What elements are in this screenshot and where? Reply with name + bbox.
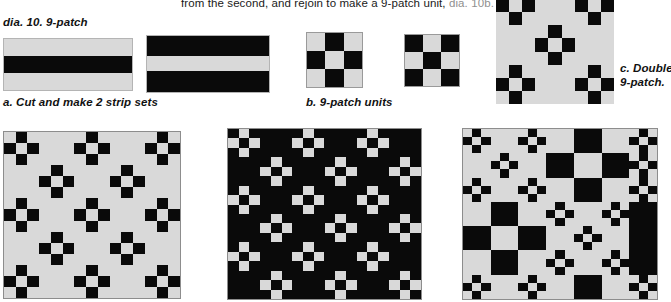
caption-b: b. 9-patch units xyxy=(306,96,393,108)
patch-cell-r2c0 xyxy=(574,242,583,250)
patch-cell-r0c2 xyxy=(410,214,421,223)
patch-cell-r0c0 xyxy=(307,33,325,51)
quilt-plain-r0c5 xyxy=(389,129,421,157)
quilt-plain-r3c2 xyxy=(292,214,324,242)
quilt-unit-r5c5 xyxy=(389,271,421,299)
patch-cell-r1c1 xyxy=(528,186,537,194)
patch-cell-r1c0 xyxy=(145,276,157,287)
patch-cell-r0c0 xyxy=(260,271,271,280)
quilt-plain-r0c3 xyxy=(546,129,574,153)
patch-cell-r0c0 xyxy=(574,226,583,234)
nine-patch-sub xyxy=(325,271,357,299)
strip-set-2 xyxy=(146,35,270,93)
patch-cell-r2c1 xyxy=(367,205,378,214)
patch-cell-r2c1 xyxy=(509,12,522,25)
nine-patch-sub xyxy=(4,132,39,165)
patch-cell-r0c2 xyxy=(346,157,357,166)
patch-cell-r2c2 xyxy=(537,291,546,299)
patch-cell-r0c2 xyxy=(314,242,325,251)
patch-cell-r2c0 xyxy=(307,69,325,87)
patch-cell-r1c1 xyxy=(367,138,378,147)
patch-cell-r0c0 xyxy=(228,242,239,251)
quilt-plain-r0c3 xyxy=(110,132,145,165)
patch-cell-r1c2 xyxy=(168,143,180,154)
patch-cell-r1c1 xyxy=(528,137,537,145)
patch-cell-r1c1 xyxy=(588,0,601,12)
patch-cell-r2c0 xyxy=(496,12,509,25)
patch-cell-r2c1 xyxy=(303,205,314,214)
patch-cell-r2c2 xyxy=(98,287,110,298)
patch-cell-r2c2 xyxy=(537,194,546,202)
patch-cell-r2c0 xyxy=(357,261,368,270)
patch-cell-r1c0 xyxy=(145,209,157,220)
patch-cell-r1c0 xyxy=(535,38,548,51)
quilt-plain-r2c1 xyxy=(39,198,74,231)
patch-cell-r0c0 xyxy=(463,178,472,186)
patch-cell-r2c1 xyxy=(271,290,282,299)
quilt-plain-r4c3 xyxy=(325,242,357,270)
patch-cell-r1c2 xyxy=(562,38,575,51)
patch-cell-r0c2 xyxy=(537,129,546,137)
quilt-unit-r4c0 xyxy=(4,265,39,298)
patch-cell-r0c0 xyxy=(389,157,400,166)
quilt-unit-r1c1 xyxy=(491,153,519,177)
patch-cell-r2c1 xyxy=(400,176,411,185)
quilt-plain-r3c0 xyxy=(4,232,39,265)
quilt-unit-r4c4 xyxy=(574,226,602,250)
patch-cell-r0c0 xyxy=(145,265,157,276)
patch-cell-r2c2 xyxy=(168,287,180,298)
patch-cell-r1c0 xyxy=(292,195,303,204)
patch-cell-r2c1 xyxy=(400,290,411,299)
quilt-plain-r1c2 xyxy=(292,157,324,185)
nine-patch-sub xyxy=(389,157,421,185)
quilt-plain-r0c1 xyxy=(491,129,519,153)
quilt-unit-r4c0 xyxy=(228,242,260,270)
patch-cell-r0c2 xyxy=(27,198,39,209)
patch-cell-r2c1 xyxy=(367,261,378,270)
patch-cell-r1c2 xyxy=(346,167,357,176)
patch-cell-r2c1 xyxy=(157,287,169,298)
patch-cell-r0c2 xyxy=(168,198,180,209)
patch-cell-r0c0 xyxy=(463,275,472,283)
patch-cell-r0c1 xyxy=(639,153,648,161)
patch-cell-r1c1 xyxy=(303,252,314,261)
patch-cell-r0c1 xyxy=(16,132,28,143)
quilt-plain-r5c4 xyxy=(574,250,602,274)
patch-cell-r1c2 xyxy=(249,138,260,147)
patch-cell-r1c1 xyxy=(16,143,28,154)
patch-cell-r1c1 xyxy=(639,137,648,145)
patch-cell-r2c2 xyxy=(562,52,575,65)
nine-patch-sub xyxy=(535,25,574,64)
nine-patch-sub xyxy=(463,275,491,299)
double-nine-patch xyxy=(496,0,614,104)
patch-cell-r1c1 xyxy=(86,276,98,287)
patch-cell-r2c1 xyxy=(86,221,98,232)
patch-cell-r2c0 xyxy=(629,145,638,153)
patch-cell-r0c2 xyxy=(98,198,110,209)
figure-page: from the second, and rejoin to make a 9-… xyxy=(0,0,671,302)
patch-cell-r2c1 xyxy=(325,69,343,87)
dnp-unit-r0c2 xyxy=(575,0,614,25)
nine-patch-sub xyxy=(518,129,546,153)
patch-cell-r0c0 xyxy=(518,178,527,186)
patch-cell-r1c2 xyxy=(168,276,180,287)
patch-cell-r2c1 xyxy=(303,148,314,157)
patch-cell-r0c2 xyxy=(378,186,389,195)
patch-cell-r0c1 xyxy=(86,198,98,209)
patch-cell-r1c0 xyxy=(518,283,527,291)
patch-cell-r0c1 xyxy=(367,186,378,195)
patch-cell-r1c2 xyxy=(648,283,657,291)
patch-cell-r2c2 xyxy=(314,261,325,270)
patch-cell-r2c1 xyxy=(555,267,564,275)
quilt-plain-r3c0 xyxy=(228,214,260,242)
running-body-text: from the second, and rejoin to make a 9-… xyxy=(181,0,494,9)
patch-cell-r1c0 xyxy=(39,176,51,187)
patch-cell-r1c0 xyxy=(228,195,239,204)
patch-cell-r2c1 xyxy=(472,145,481,153)
patch-cell-r2c0 xyxy=(39,254,51,265)
patch-cell-r2c0 xyxy=(228,261,239,270)
patch-cell-r2c1 xyxy=(51,187,63,198)
patch-cell-r0c0 xyxy=(575,65,588,78)
patch-cell-r1c2 xyxy=(133,243,145,254)
patch-cell-r1c0 xyxy=(292,252,303,261)
